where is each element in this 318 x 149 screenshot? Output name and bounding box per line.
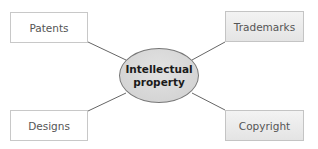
node-label: Designs [28, 120, 70, 132]
connector-designs [88, 93, 126, 111]
node-copyright: Copyright [225, 110, 304, 141]
connector-copyright [192, 93, 225, 110]
connector-patents [88, 42, 126, 60]
node-trademarks: Trademarks [225, 11, 304, 42]
node-label: Trademarks [234, 21, 295, 33]
central-node-intellectual-property: Intellectual property [119, 48, 199, 103]
central-label-line1: Intellectual [125, 63, 192, 76]
node-patents: Patents [10, 12, 88, 43]
connector-trademarks [192, 42, 225, 60]
node-designs: Designs [10, 110, 88, 141]
central-label-line2: property [133, 76, 185, 89]
node-label: Copyright [239, 120, 290, 132]
node-label: Patents [29, 22, 68, 34]
